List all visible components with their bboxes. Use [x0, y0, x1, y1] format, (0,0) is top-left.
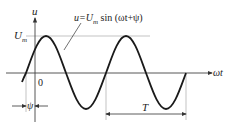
phase-label: ψ	[27, 101, 33, 111]
amplitude-subscript: m	[22, 36, 27, 44]
origin-label: 0	[38, 78, 43, 88]
y-axis-label: u	[32, 6, 38, 17]
amplitude-symbol: U	[14, 29, 22, 41]
equation-lhs: u=U	[74, 12, 93, 23]
equation-rhs: sin (ωt+ψ)	[98, 12, 143, 23]
sine-wave-diagram: u Um u=Um sin (ωt+ψ) 0 ψ T ωt	[0, 0, 229, 137]
period-label: T	[142, 102, 148, 113]
x-axis-label: ωt	[213, 68, 223, 78]
sine-curve	[22, 36, 186, 109]
equation-label: u=Um sin (ωt+ψ)	[74, 13, 143, 26]
equation-leader-line	[64, 23, 81, 50]
amplitude-label: Um	[14, 30, 27, 44]
